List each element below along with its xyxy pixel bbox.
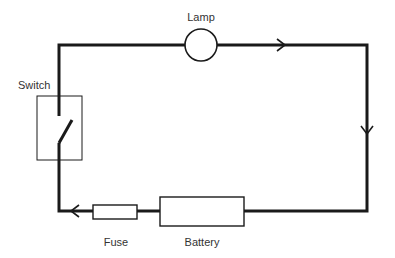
wire-fuse-to-switch xyxy=(59,143,93,211)
wires xyxy=(59,45,367,211)
wire-lamp-to-battery xyxy=(217,45,367,211)
lamp-label: Lamp xyxy=(187,11,215,23)
lamp-symbol xyxy=(185,29,217,61)
fuse-label: Fuse xyxy=(104,236,128,248)
battery-label: Battery xyxy=(185,236,220,248)
wire-switch-to-lamp xyxy=(59,45,185,116)
fuse-symbol xyxy=(93,205,137,219)
switch-lever xyxy=(59,120,72,143)
battery-symbol xyxy=(160,197,244,226)
circuit-diagram: Lamp Switch Fuse Battery xyxy=(0,0,395,258)
switch-label: Switch xyxy=(18,79,50,91)
